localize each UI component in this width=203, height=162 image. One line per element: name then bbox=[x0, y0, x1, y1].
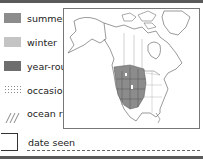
occasional-swatch bbox=[4, 85, 21, 95]
summer-swatch bbox=[4, 13, 21, 23]
north-america-map bbox=[64, 9, 199, 128]
date-checkbox[interactable] bbox=[1, 133, 18, 151]
legend-item-winter: winter bbox=[4, 36, 57, 48]
date-seen-input-line[interactable] bbox=[27, 150, 200, 151]
bottom-border bbox=[0, 156, 203, 159]
winter-swatch bbox=[4, 37, 21, 47]
year-round-swatch bbox=[4, 61, 21, 71]
ocean-range-swatch bbox=[4, 108, 21, 118]
legend-item-summer: summer bbox=[4, 12, 66, 24]
legend-label: summer bbox=[27, 13, 66, 24]
range-map bbox=[63, 8, 200, 129]
legend-label: winter bbox=[27, 37, 57, 48]
top-border bbox=[0, 0, 203, 3]
hatch-icon bbox=[4, 113, 21, 123]
date-seen-label: date seen bbox=[28, 137, 75, 148]
